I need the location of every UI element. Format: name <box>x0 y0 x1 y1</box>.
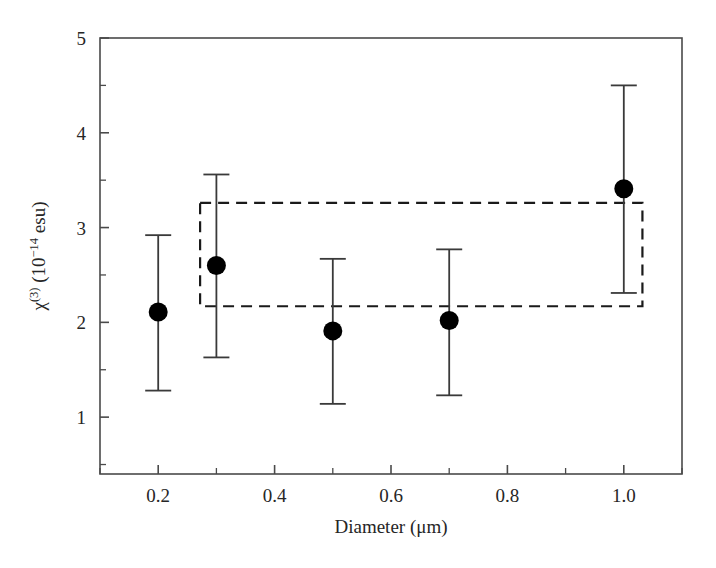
y-tick-label-4: 4 <box>77 123 87 144</box>
x-tick-label-1.0: 1.0 <box>612 485 636 506</box>
x-tick-label-0.8: 0.8 <box>496 485 520 506</box>
y-tick-label-2: 2 <box>77 312 87 333</box>
y-axis-unit-exponent: −14 <box>27 237 41 257</box>
x-tick-label-0.4: 0.4 <box>263 485 287 506</box>
y-axis-unit-open: (10 <box>28 257 50 287</box>
y-axis-symbol-superscript: (3) <box>27 288 41 303</box>
x-tick-label-0.6: 0.6 <box>379 485 403 506</box>
canvas-background <box>0 0 716 568</box>
y-tick-label-3: 3 <box>77 218 87 239</box>
chart-figure: 12345 0.20.40.60.81.0 Diameter (μm) χ(3)… <box>0 0 716 568</box>
data-point-1 <box>614 179 633 198</box>
chi3-vs-diameter-scatter-plot: 12345 0.20.40.60.81.0 Diameter (μm) χ(3)… <box>0 0 716 568</box>
data-point-0.7 <box>440 311 459 330</box>
y-tick-label-5: 5 <box>77 28 87 49</box>
x-tick-label-0.2: 0.2 <box>146 485 170 506</box>
data-point-0.3 <box>207 256 226 275</box>
data-point-0.2 <box>149 302 168 321</box>
x-axis-title: Diameter (μm) <box>334 516 447 538</box>
data-point-0.5 <box>323 321 342 340</box>
y-axis-unit-close: esu) <box>28 201 50 237</box>
y-tick-label-1: 1 <box>77 407 87 428</box>
